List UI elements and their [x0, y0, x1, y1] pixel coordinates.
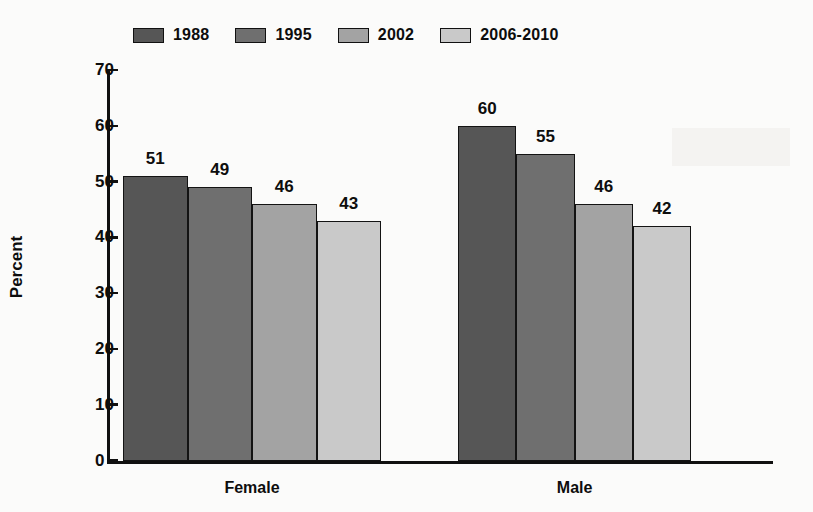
legend-swatch-1995 — [235, 28, 266, 43]
legend-item-1988: 1988 — [133, 26, 209, 44]
legend-label-1988: 1988 — [173, 26, 209, 44]
bar-male-2002 — [575, 204, 633, 461]
x-label-female: Female — [224, 479, 279, 497]
bar-female-2006-2010 — [317, 221, 382, 461]
x-label-male: Male — [557, 479, 593, 497]
legend-label-1995: 1995 — [275, 26, 311, 44]
bar-female-2002 — [252, 204, 317, 461]
bar-value-female-1988: 51 — [146, 149, 165, 169]
bar-value-female-1995: 49 — [210, 160, 229, 180]
bar-male-2006-2010 — [633, 226, 691, 460]
chart-legend: 1988 1995 2002 2006-2010 — [133, 24, 585, 46]
plot-area: 010203040506070 5149464360554642 FemaleM… — [107, 70, 773, 463]
bar-male-1995 — [516, 154, 574, 461]
bar-value-male-1988: 60 — [478, 99, 497, 119]
legend-item-2002: 2002 — [338, 26, 414, 44]
bar-female-1988 — [123, 176, 188, 461]
bar-female-1995 — [188, 187, 253, 460]
bar-value-male-2002: 46 — [594, 177, 613, 197]
bar-male-1988 — [458, 126, 516, 461]
x-axis-line — [107, 461, 773, 464]
bar-value-male-2006-2010: 42 — [653, 199, 672, 219]
bar-chart-figure: 1988 1995 2002 2006-2010 Percent 0102030… — [0, 0, 813, 512]
bar-value-female-2002: 46 — [275, 177, 294, 197]
bar-value-female-2006-2010: 43 — [339, 194, 358, 214]
y-axis-title: Percent — [7, 236, 27, 298]
legend-swatch-2002 — [338, 28, 369, 43]
y-tick-0 — [107, 459, 118, 462]
legend-item-1995: 1995 — [235, 26, 311, 44]
legend-swatch-1988 — [133, 28, 164, 43]
legend-swatch-2006-2010 — [440, 28, 471, 43]
legend-label-2006-2010: 2006-2010 — [480, 26, 558, 44]
legend-label-2002: 2002 — [378, 26, 414, 44]
bar-value-male-1995: 55 — [536, 127, 555, 147]
legend-item-2006-2010: 2006-2010 — [440, 26, 558, 44]
